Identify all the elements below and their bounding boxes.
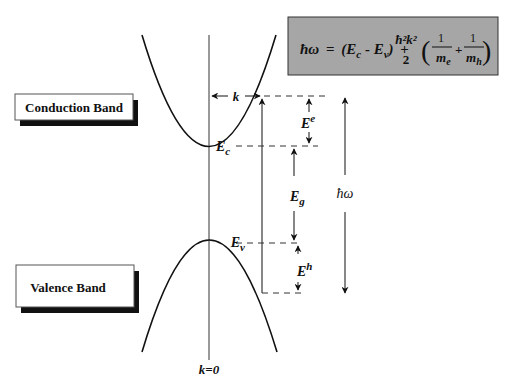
- ev-sub: v: [240, 241, 245, 253]
- formula-lparen: (: [421, 35, 430, 66]
- ev-E: E: [230, 235, 240, 250]
- formula-rparen: ): [482, 35, 491, 66]
- formula-term1: (E: [341, 41, 356, 58]
- conduction-band-box: Conduction Band: [15, 94, 138, 126]
- formula-frac-den: 2: [403, 52, 410, 67]
- formula-box: ħω = (Ec - Ev) + ħ²k² 2 ( ) 1 me + 1 mh: [288, 17, 498, 75]
- eh-sup: h: [306, 260, 312, 272]
- k-label: k: [233, 89, 240, 104]
- formula-term1-end: ): [387, 41, 394, 58]
- ev-label: Ev: [230, 235, 245, 253]
- formula-inner1-m: m: [436, 50, 446, 65]
- formula-inner1-sub: e: [446, 56, 451, 67]
- ee-sup: e: [310, 112, 315, 124]
- formula-frac-num: ħ²k²: [395, 32, 418, 47]
- ee-label: Ee: [300, 112, 315, 131]
- ec-E: E: [215, 139, 225, 154]
- ee-E: E: [300, 116, 310, 131]
- valence-band-box: Valence Band: [16, 265, 139, 313]
- eh-E: E: [296, 264, 306, 279]
- eg-E: E: [289, 189, 299, 204]
- formula-inner-plus: +: [455, 42, 462, 57]
- hw-label: ħω: [337, 186, 354, 201]
- formula-inner2-m: m: [466, 50, 476, 65]
- k0-label: k=0: [199, 362, 220, 377]
- eg-sub: g: [298, 195, 305, 207]
- valence-band-label: Valence Band: [30, 280, 106, 295]
- formula-term1-mid: - E: [361, 41, 384, 57]
- formula-inner2-num: 1: [470, 31, 476, 45]
- ec-sub: c: [225, 145, 230, 157]
- formula-inner1-num: 1: [438, 31, 444, 45]
- ec-label: Ec: [215, 139, 230, 157]
- eh-label: Eh: [296, 260, 312, 279]
- conduction-band-label: Conduction Band: [25, 100, 124, 115]
- band-diagram: ħω = (Ec - Ev) + ħ²k² 2 ( ) 1 me + 1 mh …: [0, 0, 512, 390]
- formula-lhs: ħω: [300, 41, 319, 57]
- formula-inner2-sub: h: [476, 56, 482, 67]
- eg-label: Eg: [289, 189, 305, 207]
- formula-eq: =: [326, 41, 335, 57]
